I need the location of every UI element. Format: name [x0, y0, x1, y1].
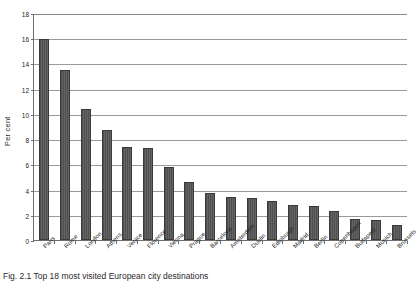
bar — [329, 211, 339, 240]
bar-slot — [158, 14, 179, 240]
y-axis-tick-label: 12 — [22, 86, 29, 93]
bar-slot — [386, 14, 407, 240]
y-axis-tick-label: 16 — [22, 36, 29, 43]
bar — [143, 148, 153, 240]
bar-slot — [179, 14, 200, 240]
bar — [309, 206, 319, 240]
y-axis-tick-label: 14 — [22, 61, 29, 68]
x-axis-label-slot: Brussels — [386, 244, 407, 278]
bar-series — [34, 14, 407, 240]
bar-slot — [324, 14, 345, 240]
bar — [184, 182, 194, 240]
bar — [392, 225, 402, 240]
figure-caption: Fig. 2.1 Top 18 most visited European ci… — [3, 272, 333, 282]
y-axis-tick-labels: 024681012141618 — [14, 0, 31, 282]
y-axis-tick-label: 4 — [25, 187, 29, 194]
y-axis-tick-label: 2 — [25, 212, 29, 219]
bar — [267, 201, 277, 240]
x-axis-label-slot: Budapest — [345, 244, 366, 278]
bar — [60, 70, 70, 240]
bar-slot — [241, 14, 262, 240]
bar-slot — [366, 14, 387, 240]
bar-slot — [96, 14, 117, 240]
bar-slot — [345, 14, 366, 240]
bar-slot — [117, 14, 138, 240]
bar-slot — [75, 14, 96, 240]
bar — [205, 193, 215, 240]
plot-area — [33, 14, 407, 241]
bar-slot — [262, 14, 283, 240]
y-axis-tick-label: 0 — [25, 238, 29, 245]
bar-slot — [303, 14, 324, 240]
y-axis-title: Per cent — [1, 96, 15, 166]
x-axis-label-slot: Munich — [366, 244, 387, 278]
bar-slot — [138, 14, 159, 240]
bar-slot — [220, 14, 241, 240]
bar — [122, 147, 132, 240]
y-axis-tick-label: 10 — [22, 111, 29, 118]
figure-caption-text: Fig. 2.1 Top 18 most visited European ci… — [3, 272, 208, 281]
bar-slot — [55, 14, 76, 240]
y-axis-tick-label: 8 — [25, 137, 29, 144]
bar — [102, 130, 112, 240]
bar — [81, 109, 91, 240]
bar-slot — [34, 14, 55, 240]
y-axis-tick-label: 6 — [25, 162, 29, 169]
bar-slot — [283, 14, 304, 240]
bar — [39, 39, 49, 240]
bar-slot — [200, 14, 221, 240]
y-axis-tick-label: 18 — [22, 11, 29, 18]
